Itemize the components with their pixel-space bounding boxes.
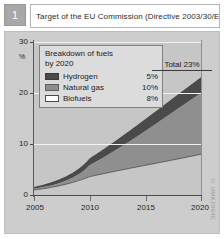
y-tick-label-30: 30 [7,38,28,46]
legend-rows: Hydrogen 5% Natural gas 10% Biofuels 8% [45,71,158,103]
legend-item-biofuels: Biofuels 8% [45,93,158,103]
gridline-30 [34,42,201,43]
total-annotation-underline [152,70,212,71]
chart-legend: Breakdown of fuels by 2020 Hydrogen 5% N… [39,45,163,108]
legend-value-hydrogen: 5% [146,72,158,81]
y-tick-label-0: 0 [7,191,28,199]
figure-number-badge: 1 [4,4,26,26]
y-tick-mark-20 [30,93,33,94]
source-watermark: © UMK2064E [206,178,216,234]
legend-label-biofuels: Biofuels [63,94,146,103]
page-title: Target of the EU Commission (Directive 2… [36,12,220,21]
y-tick-mark-10 [30,144,33,145]
figure-title-box: Target of the EU Commission (Directive 2… [30,4,220,28]
y-tick-label-20: 20 [7,89,28,97]
legend-title-line-1: Breakdown of fuels [45,49,158,59]
x-tick-mark-2005 [34,196,35,201]
figure-header: 1 Target of the EU Commission (Directive… [4,4,220,28]
legend-label-hydrogen: Hydrogen [63,72,146,81]
x-axis-line [33,195,202,196]
x-tick-label-2010: 2010 [75,203,105,212]
legend-swatch-natural-gas [45,84,59,91]
chart-area: 30 20 10 0 % [4,31,220,234]
legend-swatch-biofuels [45,95,59,102]
x-tick-label-2005: 2005 [20,203,50,212]
gridline-10 [34,144,201,145]
total-annotation: Total 23% [152,60,212,71]
legend-label-natural-gas: Natural gas [63,83,142,92]
y-tick-mark-30 [30,42,33,43]
legend-swatch-hydrogen [45,73,59,80]
legend-item-natural-gas: Natural gas 10% [45,82,158,92]
x-tick-mark-2020 [201,196,202,201]
legend-item-hydrogen: Hydrogen 5% [45,71,158,81]
y-tick-label-10: 10 [7,140,28,148]
legend-value-biofuels: 8% [146,94,158,103]
chart-card-figure: 1 Target of the EU Commission (Directive… [0,0,224,239]
x-tick-mark-2015 [146,196,147,201]
legend-title-line-2: by 2020 [45,59,158,69]
legend-value-natural-gas: 10% [142,83,158,92]
total-annotation-label: Total 23% [152,60,212,69]
y-axis-unit-label: % [19,53,25,60]
x-tick-label-2015: 2015 [131,203,161,212]
x-tick-mark-2010 [90,196,91,201]
y-tick-mark-0 [30,195,33,196]
